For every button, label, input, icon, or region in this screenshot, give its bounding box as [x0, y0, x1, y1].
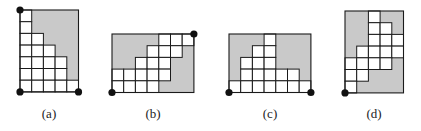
corner-dot-bottom-left: [108, 89, 115, 96]
figure-d: [341, 11, 403, 97]
grid-cell: [55, 80, 67, 92]
grid-cell: [55, 69, 67, 81]
corner-dot-top-right: [190, 30, 197, 37]
grid-cell: [32, 69, 44, 81]
grid-cell: [20, 33, 32, 45]
lattice-diagrams: [0, 0, 421, 131]
grid-cell: [124, 81, 136, 93]
grid-cell: [357, 58, 369, 70]
grid-cell: [159, 57, 171, 69]
figure-label-c: (c): [263, 106, 277, 122]
grid-cell: [135, 57, 147, 69]
grid-cell: [43, 57, 55, 69]
grid-cell: [252, 57, 264, 69]
grid-cell: [392, 34, 404, 46]
grid-cell: [135, 81, 147, 93]
grid-cell: [264, 34, 276, 46]
grid-cell: [276, 69, 288, 81]
grid-cell: [20, 45, 32, 57]
grid-cell: [357, 70, 369, 82]
figure-label-d: (d): [366, 106, 381, 122]
grid-cell: [147, 57, 159, 69]
grid-cell: [380, 58, 392, 70]
grid-cell: [264, 46, 276, 58]
grid-cell: [345, 70, 357, 82]
grid-cell: [368, 46, 380, 58]
grid-cell: [380, 23, 392, 35]
grid-cell: [241, 57, 253, 69]
grid-cell: [252, 69, 264, 81]
figure-panel: (a) (b) (c) (d): [0, 0, 421, 131]
corner-dot-bottom-right: [75, 88, 82, 95]
figure-a: [16, 6, 82, 95]
corner-dot-bottom-left: [225, 89, 232, 96]
grid-cell: [392, 46, 404, 58]
grid-cell: [241, 69, 253, 81]
grid-cell: [345, 58, 357, 70]
figure-label-a: (a): [42, 106, 56, 122]
grid-cell: [43, 69, 55, 81]
corner-dot-bottom-left: [341, 89, 348, 96]
grid-cell: [147, 81, 159, 93]
grid-cell: [147, 46, 159, 58]
figure-c: [225, 34, 314, 96]
grid-cell: [135, 69, 147, 81]
grid-cell: [159, 69, 171, 81]
grid-cell: [124, 69, 136, 81]
grid-cell: [43, 45, 55, 57]
grid-cell: [112, 69, 124, 81]
corner-dot-top-left: [16, 6, 23, 13]
grid-cell: [288, 81, 300, 93]
grid-cell: [159, 46, 171, 58]
grid-cell: [276, 81, 288, 93]
grid-cell: [264, 81, 276, 93]
grid-cell: [252, 46, 264, 58]
grid-cell: [20, 57, 32, 69]
grid-cell: [20, 22, 32, 34]
grid-cell: [264, 69, 276, 81]
grid-cell: [288, 69, 300, 81]
grid-cell: [357, 46, 369, 58]
grid-cell: [147, 69, 159, 81]
grid-cell: [20, 69, 32, 81]
grid-cell: [380, 34, 392, 46]
grid-cell: [55, 57, 67, 69]
grid-cell: [264, 57, 276, 69]
corner-dot-bottom-right: [307, 89, 314, 96]
grid-cell: [368, 58, 380, 70]
figure-b: [108, 30, 197, 96]
grid-cell: [368, 11, 380, 23]
grid-cell: [32, 57, 44, 69]
grid-cell: [368, 23, 380, 35]
grid-cell: [32, 33, 44, 45]
grid-cell: [368, 34, 380, 46]
figure-label-b: (b): [145, 106, 160, 122]
grid-cell: [380, 46, 392, 58]
grid-cell: [241, 81, 253, 93]
grid-cell: [159, 34, 171, 46]
grid-cell: [252, 81, 264, 93]
grid-cell: [171, 34, 183, 46]
grid-cell: [171, 46, 183, 58]
grid-cell: [32, 45, 44, 57]
grid-cell: [32, 80, 44, 92]
corner-dot-bottom-left: [16, 88, 23, 95]
grid-cell: [43, 80, 55, 92]
